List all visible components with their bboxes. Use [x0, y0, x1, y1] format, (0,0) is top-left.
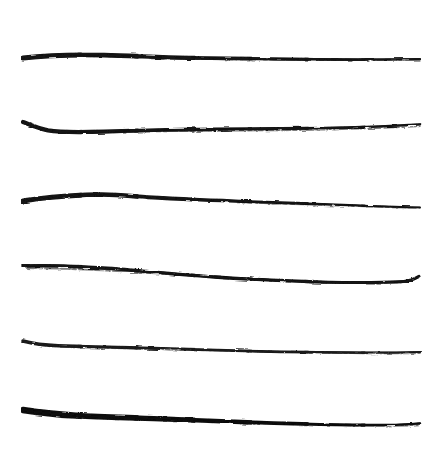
paper-background [0, 0, 448, 466]
drawing-canvas [0, 0, 448, 466]
ink-surface [0, 0, 448, 466]
